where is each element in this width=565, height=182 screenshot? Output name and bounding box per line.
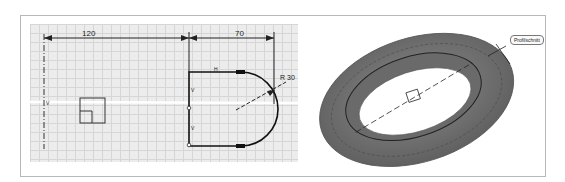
vertical-constraint-1: V — [191, 87, 195, 93]
horizontal-constraint: H — [214, 66, 218, 72]
sketch-panel: 120 70 R 30 H V V V — [30, 24, 298, 162]
radius-label: R 30 — [280, 74, 295, 81]
3d-view-panel — [298, 16, 544, 174]
feature-tag[interactable]: Profilschnitt — [510, 35, 544, 45]
dim-120-label: 120 — [82, 29, 96, 38]
dim-70-label: 70 — [235, 29, 244, 38]
sketch-drawing: 120 70 R 30 H V V V — [30, 24, 298, 162]
vertical-constraint-2: V — [191, 125, 195, 131]
torus-model — [298, 16, 544, 174]
feature-tag-label: Profilschnitt — [514, 37, 540, 43]
